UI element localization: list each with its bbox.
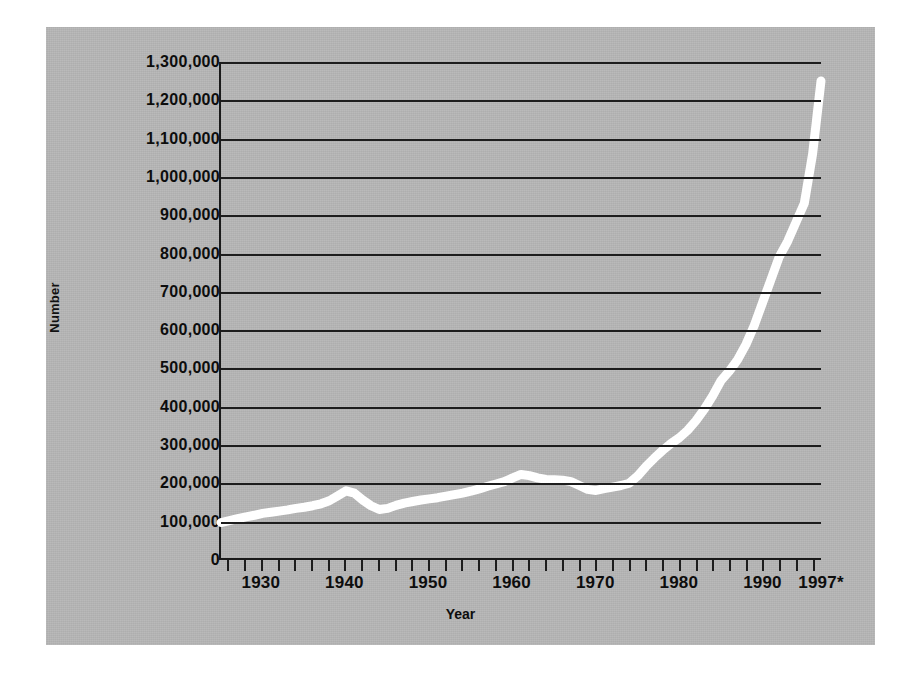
x-minor-tick	[244, 560, 246, 571]
x-tick-label: 1960	[492, 573, 531, 593]
x-minor-tick	[779, 560, 781, 571]
x-minor-tick	[679, 560, 681, 571]
gridline	[221, 254, 821, 256]
x-minor-tick	[478, 560, 480, 571]
x-minor-tick	[762, 560, 764, 571]
gridline	[221, 407, 821, 409]
x-minor-tick	[428, 560, 430, 571]
x-minor-tick	[328, 560, 330, 571]
x-minor-tick	[395, 560, 397, 571]
x-minor-tick	[378, 560, 380, 571]
x-tick-label: 1970	[576, 573, 615, 593]
plot-area	[219, 62, 821, 560]
x-minor-tick	[445, 560, 447, 571]
y-tick-label: 400,000	[96, 398, 220, 416]
gridline	[221, 177, 821, 179]
x-minor-tick	[545, 560, 547, 571]
chart-figure: Number 1,300,0001,200,0001,100,0001,000,…	[0, 0, 921, 684]
x-minor-tick	[746, 560, 748, 571]
gridline	[221, 522, 821, 524]
x-minor-tick	[261, 560, 263, 571]
y-tick-label: 300,000	[96, 436, 220, 454]
y-tick-label: 200,000	[96, 474, 220, 492]
x-minor-tick	[411, 560, 413, 571]
x-minor-tick	[495, 560, 497, 571]
x-tick-label: 1980	[660, 573, 699, 593]
x-minor-tick	[361, 560, 363, 571]
gridline	[221, 368, 821, 370]
gridline	[221, 445, 821, 447]
plot-top-border	[221, 62, 821, 64]
y-tick-label: 1,200,000	[96, 91, 220, 109]
x-axis-title: Year	[0, 606, 921, 622]
gridline	[221, 330, 821, 332]
x-minor-tick	[712, 560, 714, 571]
x-minor-tick	[579, 560, 581, 571]
x-axis-ticks	[219, 560, 821, 571]
gridline	[221, 139, 821, 141]
x-tick-label: 1940	[325, 573, 364, 593]
x-tick-label: 1997*	[798, 573, 843, 593]
x-tick-label: 1930	[241, 573, 280, 593]
x-minor-tick	[512, 560, 514, 571]
gridline	[221, 483, 821, 485]
x-tick-label: 1950	[409, 573, 448, 593]
y-axis-title: Number	[47, 248, 62, 368]
y-axis-tick-labels: 1,300,0001,200,0001,100,0001,000,000900,…	[96, 54, 220, 574]
x-minor-tick	[662, 560, 664, 571]
y-tick-label: 600,000	[96, 321, 220, 339]
y-tick-label: 700,000	[96, 283, 220, 301]
y-tick-label: 800,000	[96, 245, 220, 263]
series-line-number	[221, 81, 821, 522]
gridline	[221, 100, 821, 102]
x-minor-tick	[461, 560, 463, 571]
y-tick-label: 100,000	[96, 513, 220, 531]
x-minor-tick	[562, 560, 564, 571]
y-tick-label: 1,000,000	[96, 168, 220, 186]
x-minor-tick	[227, 560, 229, 571]
x-minor-tick	[696, 560, 698, 571]
x-minor-tick	[645, 560, 647, 571]
x-minor-tick	[612, 560, 614, 571]
y-tick-label: 900,000	[96, 206, 220, 224]
y-tick-label: 1,100,000	[96, 130, 220, 148]
x-tick-label: 1990	[743, 573, 782, 593]
gridline	[221, 215, 821, 217]
y-tick-label: 500,000	[96, 359, 220, 377]
x-minor-tick	[796, 560, 798, 571]
x-minor-tick	[813, 560, 815, 571]
x-minor-tick	[595, 560, 597, 571]
x-minor-tick	[278, 560, 280, 571]
x-minor-tick	[629, 560, 631, 571]
gridline	[221, 292, 821, 294]
x-minor-tick	[729, 560, 731, 571]
x-axis-tick-labels: 19301940195019601970198019901997*	[120, 573, 910, 599]
y-tick-label: 1,300,000	[96, 53, 220, 71]
x-minor-tick	[344, 560, 346, 571]
x-minor-tick	[311, 560, 313, 571]
y-tick-label: 0	[96, 551, 220, 569]
x-minor-tick	[528, 560, 530, 571]
x-minor-tick	[294, 560, 296, 571]
